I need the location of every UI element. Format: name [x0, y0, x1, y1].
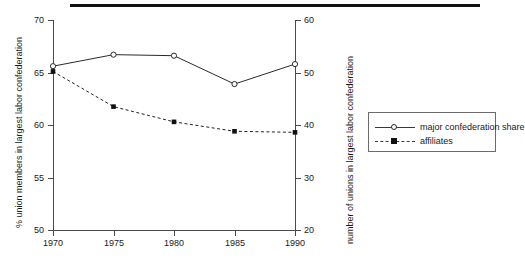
legend-label: major confederation share	[420, 122, 525, 132]
data-point	[232, 81, 237, 86]
data-point	[111, 52, 116, 57]
data-point	[50, 64, 55, 69]
legend: major confederation share affiliates	[368, 112, 496, 152]
data-point	[171, 53, 176, 58]
legend-label: affiliates	[420, 136, 453, 146]
series-affiliates-markers	[51, 69, 298, 135]
legend-swatch-line-open-circle-icon	[375, 122, 415, 132]
data-point	[292, 62, 297, 67]
legend-item-affiliates: affiliates	[375, 135, 453, 147]
legend-item-major-confederation-share: major confederation share	[375, 121, 525, 133]
data-point	[293, 130, 298, 135]
series-major-confederation-share-line	[53, 55, 295, 84]
legend-swatch-dashed-filled-square-icon	[375, 136, 415, 146]
data-point	[172, 120, 177, 125]
data-point	[111, 104, 116, 109]
series-major-confederation-share-markers	[50, 52, 297, 87]
data-point	[232, 129, 237, 134]
data-point	[51, 69, 56, 74]
